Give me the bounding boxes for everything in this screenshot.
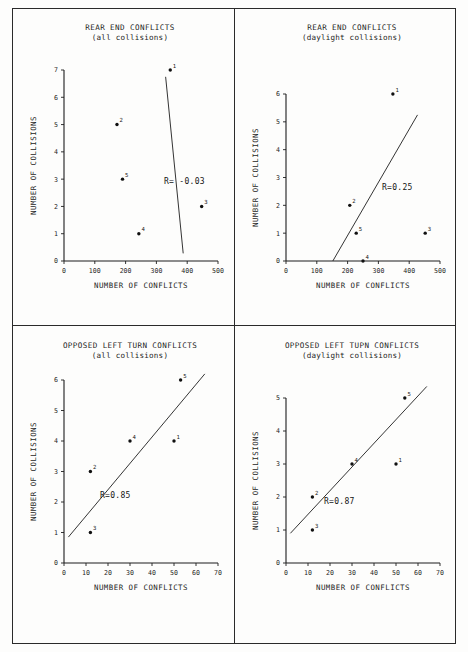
y-tick-label: 2 — [54, 498, 58, 506]
correlation-annotation: R=0.85 — [100, 491, 131, 500]
panel-title: REAR END CONFLICTS — [307, 23, 397, 32]
x-tick-label: 400 — [181, 267, 193, 275]
y-tick-label: 3 — [54, 176, 58, 184]
data-point-label: 1 — [395, 87, 398, 93]
x-axis-label: NUMBER OF CONFLICTS — [316, 583, 410, 592]
x-axis-label: NUMBER OF CONFLICTS — [316, 281, 410, 290]
y-tick-label: 2 — [54, 203, 58, 211]
data-point — [348, 204, 351, 207]
y-tick-label: 2 — [276, 493, 280, 501]
x-tick-label: 0 — [284, 267, 288, 275]
data-point-label: 1 — [177, 434, 180, 440]
x-tick-label: 40 — [148, 569, 156, 577]
y-tick-label: 4 — [276, 146, 280, 154]
x-tick-label: 50 — [170, 569, 178, 577]
y-tick-label: 1 — [276, 526, 280, 534]
data-point — [311, 528, 314, 531]
x-tick-label: 0 — [62, 267, 66, 275]
data-point-label: 3 — [315, 523, 318, 529]
data-point — [89, 531, 92, 534]
x-tick-label: 10 — [82, 569, 90, 577]
x-tick-label: 70 — [436, 569, 444, 577]
data-point — [115, 123, 118, 126]
x-tick-label: 100 — [311, 267, 323, 275]
data-point-label: 5 — [183, 373, 186, 379]
x-tick-label: 20 — [104, 569, 112, 577]
y-tick-label: 1 — [54, 529, 58, 537]
x-tick-label: 0 — [284, 569, 288, 577]
data-point — [179, 378, 182, 381]
y-axis-label: NUMBER OF COLLISIONS — [251, 431, 260, 530]
x-tick-label: 30 — [348, 569, 356, 577]
data-point-label: 2 — [352, 198, 355, 204]
data-point-label: 1 — [399, 457, 402, 463]
regression-line — [290, 386, 426, 533]
data-point — [391, 92, 394, 95]
data-point-label: 5 — [407, 391, 410, 397]
regression-line — [68, 374, 204, 537]
x-tick-label: 40 — [370, 569, 378, 577]
y-tick-label: 7 — [54, 66, 58, 74]
panel-title: OPPOSED LEFT TUPN CONFLICTS — [285, 341, 419, 350]
y-axis-label: NUMBER OF COLLISIONS — [29, 422, 38, 521]
regression-line — [166, 77, 184, 254]
y-tick-label: 5 — [276, 394, 280, 402]
panel-opposed-left-turn-all: OPPOSED LEFT TURN CONFLICTS(all collisio… — [12, 326, 234, 644]
y-tick-label: 4 — [54, 148, 58, 156]
data-point-label: 2 — [315, 490, 318, 496]
y-tick-label: 0 — [276, 559, 280, 567]
y-tick-label: 6 — [54, 94, 58, 102]
data-point — [121, 177, 124, 180]
data-point-label: 4 — [366, 254, 370, 260]
data-point — [424, 231, 427, 234]
panel-rear-end-daylight: REAR END CONFLICTS(daylight collisions)0… — [234, 8, 456, 326]
data-point-label: 2 — [93, 464, 96, 470]
y-tick-label: 0 — [276, 257, 280, 265]
figure-page: REAR END CONFLICTS(all collisions)012345… — [0, 0, 468, 652]
y-tick-label: 3 — [276, 174, 280, 182]
x-tick-label: 500 — [212, 267, 224, 275]
data-point — [169, 68, 172, 71]
data-point — [137, 232, 140, 235]
correlation-annotation: R= -0.03 — [164, 177, 205, 186]
data-point-label: 4 — [133, 434, 137, 440]
data-point-label: 3 — [93, 525, 96, 531]
x-tick-label: 500 — [434, 267, 446, 275]
x-tick-label: 300 — [150, 267, 162, 275]
y-tick-label: 6 — [54, 376, 58, 384]
x-tick-label: 100 — [89, 267, 101, 275]
y-axis-label: NUMBER OF COLLISIONS — [29, 116, 38, 215]
y-tick-label: 5 — [54, 407, 58, 415]
panel-title: OPPOSED LEFT TURN CONFLICTS — [63, 341, 197, 350]
x-tick-label: 200 — [342, 267, 354, 275]
y-tick-label: 6 — [276, 90, 280, 98]
x-tick-label: 30 — [126, 569, 134, 577]
data-point — [311, 495, 314, 498]
y-tick-label: 1 — [276, 230, 280, 238]
x-tick-label: 200 — [120, 267, 132, 275]
data-point-label: 5 — [359, 226, 362, 232]
scatter-plot-opposed-left-turn-daylight: OPPOSED LEFT TUPN CONFLICTS(daylight col… — [234, 326, 456, 644]
x-tick-label: 20 — [326, 569, 334, 577]
data-point — [128, 439, 131, 442]
y-axis-label: NUMBER OF COLLISIONS — [251, 128, 260, 227]
y-tick-label: 4 — [276, 427, 280, 435]
panel-subtitle: (all collisions) — [92, 351, 168, 360]
scatter-plot-rear-end-all: REAR END CONFLICTS(all collisions)012345… — [12, 8, 234, 326]
data-point-label: 5 — [125, 172, 128, 178]
data-point — [355, 231, 358, 234]
y-tick-label: 2 — [276, 202, 280, 210]
panel-title: REAR END CONFLICTS — [85, 23, 175, 32]
data-point — [403, 396, 406, 399]
y-tick-label: 3 — [54, 468, 58, 476]
panel-opposed-left-turn-daylight: OPPOSED LEFT TUPN CONFLICTS(daylight col… — [234, 326, 456, 644]
y-tick-label: 0 — [54, 559, 58, 567]
data-point — [394, 462, 397, 465]
correlation-annotation: R=0.87 — [324, 497, 355, 506]
data-point — [361, 259, 364, 262]
x-axis-label: NUMBER OF CONFLICTS — [94, 281, 188, 290]
x-tick-label: 0 — [62, 569, 66, 577]
x-tick-label: 60 — [192, 569, 200, 577]
y-tick-label: 3 — [276, 460, 280, 468]
x-tick-label: 10 — [304, 569, 312, 577]
